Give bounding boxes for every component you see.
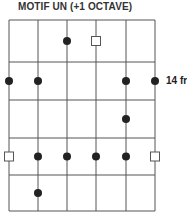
note-dot [151,77,159,85]
fretboard-grid [0,0,187,213]
note-dot [63,37,71,45]
note-dot [34,153,42,161]
note-dot [122,153,130,161]
root-note-square [5,152,14,161]
note-dot [122,115,130,123]
note-dot [5,77,13,85]
note-dot [63,153,71,161]
note-dot [34,189,42,197]
note-dot [92,153,100,161]
root-note-square [151,152,160,161]
root-note-square [92,37,101,46]
note-dot [34,77,42,85]
note-dot [122,77,130,85]
